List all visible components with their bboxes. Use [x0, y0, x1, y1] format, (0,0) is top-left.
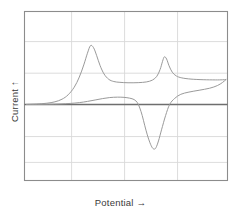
voltammogram-curve: [27, 45, 226, 149]
y-axis-label-text: Current: [9, 89, 20, 122]
curve-reverse-scan: [27, 80, 226, 149]
x-axis-label: Potential →: [0, 197, 241, 208]
curve-forward-scan: [27, 45, 226, 104]
gridlines-group: [25, 12, 228, 181]
cyclic-voltammogram-figure: Current ↑ Potential →: [0, 0, 241, 222]
y-axis-label: Current ↑: [9, 66, 20, 138]
x-axis-label-text: Potential: [95, 197, 134, 208]
x-axis-arrow-icon: →: [136, 197, 146, 208]
plot-canvas: [0, 0, 241, 222]
plot-border: [25, 12, 228, 181]
y-axis-arrow-icon: ↑: [9, 81, 20, 86]
plot-frame: [25, 12, 228, 181]
